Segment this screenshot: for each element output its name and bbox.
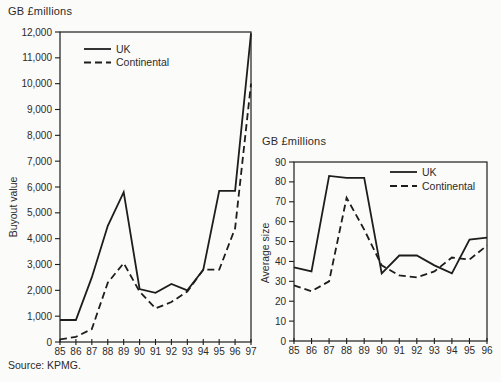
y-axis-tick-label: 12,000 <box>21 27 52 38</box>
x-axis-tick-label: 96 <box>481 345 493 356</box>
right-chart-units-title: GB £millions <box>262 135 326 147</box>
series-line-uk <box>60 33 251 320</box>
y-axis-tick-label: 80 <box>275 176 287 187</box>
legend-label-continental: Continental <box>116 56 169 68</box>
y-axis-title: Average size <box>259 223 271 284</box>
x-axis-tick-label: 86 <box>306 345 318 356</box>
y-axis-tick-label: 5,000 <box>27 207 52 218</box>
x-axis-tick-label: 91 <box>150 346 162 357</box>
y-axis-tick-label: 8,000 <box>27 130 52 141</box>
x-axis-tick-label: 90 <box>376 345 388 356</box>
left-chart-units-title: GB £millions <box>8 5 72 17</box>
x-axis-tick-label: 94 <box>198 346 210 357</box>
y-axis-tick-label: 10 <box>275 316 287 327</box>
x-axis-tick-label: 85 <box>54 346 66 357</box>
chart-panel-1: 0102030405060708090858687888990919293949… <box>259 157 493 357</box>
x-axis-tick-label: 93 <box>182 346 194 357</box>
y-axis-tick-label: 0 <box>46 337 52 348</box>
y-axis-tick-label: 30 <box>275 276 287 287</box>
y-axis-tick-label: 50 <box>275 236 287 247</box>
y-axis-tick-label: 9,000 <box>27 104 52 115</box>
legend-label-uk: UK <box>422 166 437 178</box>
y-axis-tick-label: 0 <box>280 336 286 347</box>
x-axis-tick-label: 95 <box>214 346 226 357</box>
x-axis-tick-label: 93 <box>429 345 441 356</box>
source-note: Source: KPMG. <box>8 359 81 371</box>
y-axis-tick-label: 7,000 <box>27 156 52 167</box>
x-axis-tick-label: 89 <box>359 345 371 356</box>
x-axis-tick-label: 91 <box>394 345 406 356</box>
x-axis-tick-label: 85 <box>288 345 300 356</box>
x-axis-tick-label: 87 <box>324 345 336 356</box>
y-axis-tick-label: 20 <box>275 296 287 307</box>
y-axis-tick-label: 60 <box>275 216 287 227</box>
y-axis-tick-label: 2,000 <box>27 285 52 296</box>
y-axis-tick-label: 3,000 <box>27 259 52 270</box>
y-axis-tick-label: 6,000 <box>27 182 52 193</box>
legend-label-uk: UK <box>116 43 131 55</box>
figure-canvas: 01,0002,0003,0004,0005,0006,0007,0008,00… <box>0 0 501 382</box>
y-axis-tick-label: 10,000 <box>21 78 52 89</box>
y-axis-tick-label: 70 <box>275 196 287 207</box>
x-axis-tick-label: 86 <box>70 346 82 357</box>
x-axis-tick-label: 92 <box>411 345 423 356</box>
chart-panel-0: 01,0002,0003,0004,0005,0006,0007,0008,00… <box>7 27 257 358</box>
x-axis-tick-label: 92 <box>166 346 178 357</box>
x-axis-tick-label: 88 <box>102 346 114 357</box>
dual-line-chart: 01,0002,0003,0004,0005,0006,0007,0008,00… <box>0 0 501 382</box>
x-axis-tick-label: 88 <box>341 345 353 356</box>
y-axis-tick-label: 90 <box>275 157 287 168</box>
plot-area-border <box>60 32 251 342</box>
legend-label-continental: Continental <box>422 180 475 192</box>
series-line-continental <box>60 84 251 340</box>
x-axis-tick-label: 97 <box>245 346 257 357</box>
x-axis-tick-label: 87 <box>86 346 98 357</box>
y-axis-tick-label: 40 <box>275 256 287 267</box>
x-axis-tick-label: 90 <box>134 346 146 357</box>
y-axis-tick-label: 1,000 <box>27 311 52 322</box>
x-axis-tick-label: 95 <box>464 345 476 356</box>
x-axis-tick-label: 94 <box>446 345 458 356</box>
x-axis-tick-label: 89 <box>118 346 130 357</box>
x-axis-tick-label: 96 <box>230 346 242 357</box>
y-axis-title: Buyout value <box>7 176 19 237</box>
y-axis-tick-label: 4,000 <box>27 233 52 244</box>
y-axis-tick-label: 11,000 <box>22 52 52 63</box>
